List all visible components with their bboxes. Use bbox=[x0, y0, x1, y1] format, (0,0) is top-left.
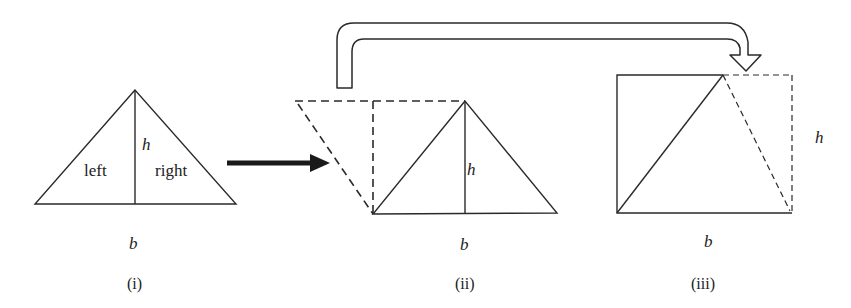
arrow-head-icon bbox=[310, 154, 330, 172]
figure-i: h left right b (i) bbox=[35, 90, 236, 293]
height-label-i: h bbox=[142, 135, 151, 154]
height-label-iii: h bbox=[815, 128, 824, 147]
caption-iii: (iii) bbox=[691, 275, 715, 293]
base-label-i: b bbox=[129, 234, 138, 253]
height-label-ii: h bbox=[467, 160, 476, 179]
base-label-ii: b bbox=[460, 235, 469, 254]
base-label-iii: b bbox=[704, 232, 713, 251]
dashed-slant-iii bbox=[723, 75, 790, 211]
left-label: left bbox=[84, 161, 107, 180]
diagram-canvas: h left right b (i) h b (ii) h b (iii) bbox=[0, 0, 851, 308]
figure-ii: h b (ii) bbox=[295, 101, 557, 293]
right-label: right bbox=[155, 161, 187, 180]
rectangle-solid-edges bbox=[617, 75, 792, 213]
diagonal-iii bbox=[617, 75, 723, 213]
caption-i: (i) bbox=[127, 275, 142, 293]
dashed-slant-ii bbox=[298, 104, 373, 214]
caption-ii: (ii) bbox=[455, 275, 475, 293]
transform-arrow bbox=[227, 154, 330, 172]
figure-iii: h b (iii) bbox=[617, 75, 824, 293]
curved-hollow-arrow-icon bbox=[337, 23, 761, 88]
